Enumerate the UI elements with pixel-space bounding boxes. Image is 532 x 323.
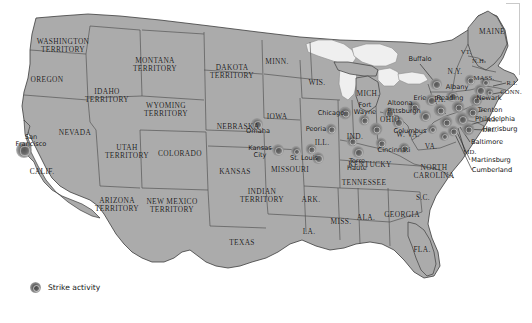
- strike-activity-map: WASHINGTON TERRITORYOREGONIDAHO TERRITOR…: [0, 0, 532, 323]
- frame-line-horizontal: [506, 3, 520, 4]
- legend-label: Strike activity: [48, 283, 100, 292]
- strike-blob-icon: [30, 282, 41, 293]
- landmass: [22, 12, 518, 278]
- frame-line-vertical: [519, 3, 520, 75]
- map-geometry: [0, 0, 532, 323]
- legend: Strike activity: [30, 282, 100, 293]
